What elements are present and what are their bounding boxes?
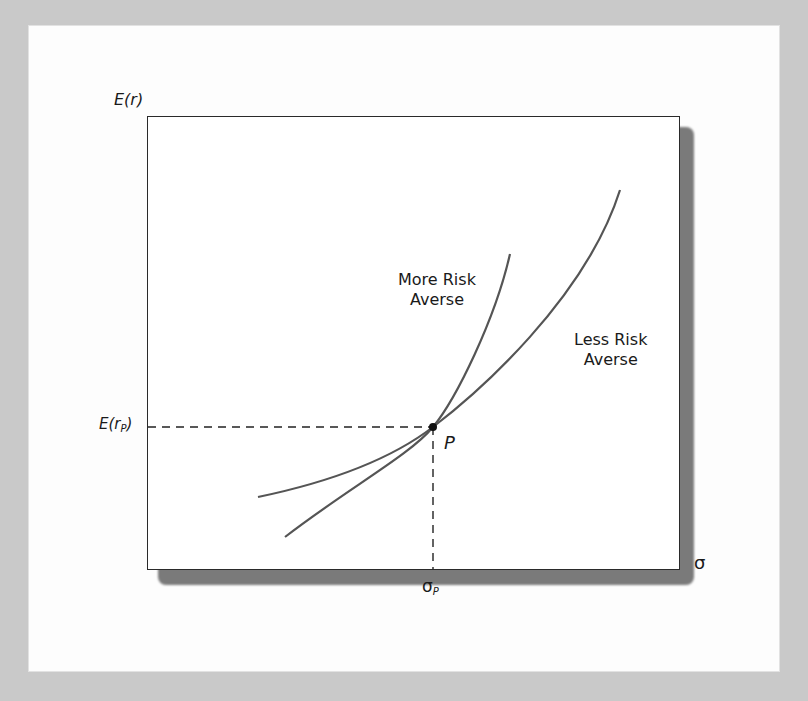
less-risk-averse-label: Less Risk Averse <box>574 330 647 370</box>
less-risk-averse-curve <box>258 190 620 497</box>
x-tick-sigma-p: σP <box>422 576 439 597</box>
y-tick-main: E(r <box>99 415 121 433</box>
less-risk-averse-line1: Less Risk <box>574 330 647 350</box>
y-tick-erp: E(rP) <box>99 415 132 434</box>
more-risk-averse-line1: More Risk <box>398 270 476 290</box>
x-tick-main: σ <box>422 576 433 596</box>
more-risk-averse-line2: Averse <box>398 290 476 310</box>
x-tick-subscript: P <box>433 586 439 597</box>
point-p-label: P <box>444 432 455 453</box>
less-risk-averse-line2: Averse <box>574 350 647 370</box>
point-p-marker <box>429 423 437 431</box>
y-tick-close: ) <box>127 415 133 433</box>
x-axis-label: σ <box>694 552 705 573</box>
more-risk-averse-label: More Risk Averse <box>398 270 476 310</box>
y-axis-label: E(r) <box>114 90 143 109</box>
